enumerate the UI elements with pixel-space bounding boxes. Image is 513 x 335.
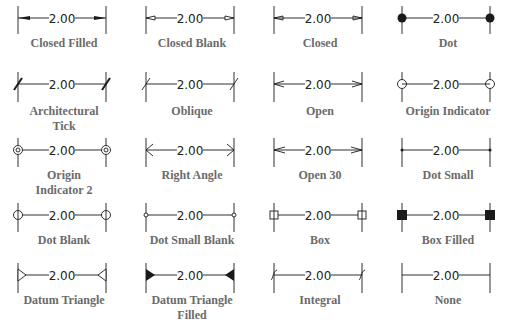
dimension-value: 2.00 <box>433 269 460 283</box>
arrowhead-label-line: Datum Triangle <box>128 293 256 308</box>
arrowhead-label: None <box>384 293 512 308</box>
integral-dimension-icon: 2.00 <box>256 0 384 335</box>
dimension-value: 2.00 <box>49 269 76 283</box>
dimension-value: 2.00 <box>177 269 204 283</box>
arrowhead-label-line: None <box>384 293 512 308</box>
arrowhead-label: Datum Triangle <box>0 293 128 308</box>
datum-filled-dimension-icon: 2.00 <box>128 0 256 335</box>
none-dimension-icon: 2.00 <box>384 0 512 335</box>
arrowhead-label-line: Integral <box>256 293 384 308</box>
arrowhead-label-line: Datum Triangle <box>0 293 128 308</box>
datum-dimension-icon: 2.00 <box>0 0 128 335</box>
arrowhead-label-line: Filled <box>128 308 256 323</box>
arrowhead-label: Datum TriangleFilled <box>128 293 256 323</box>
arrowhead-label: Integral <box>256 293 384 308</box>
dimension-value: 2.00 <box>305 269 332 283</box>
